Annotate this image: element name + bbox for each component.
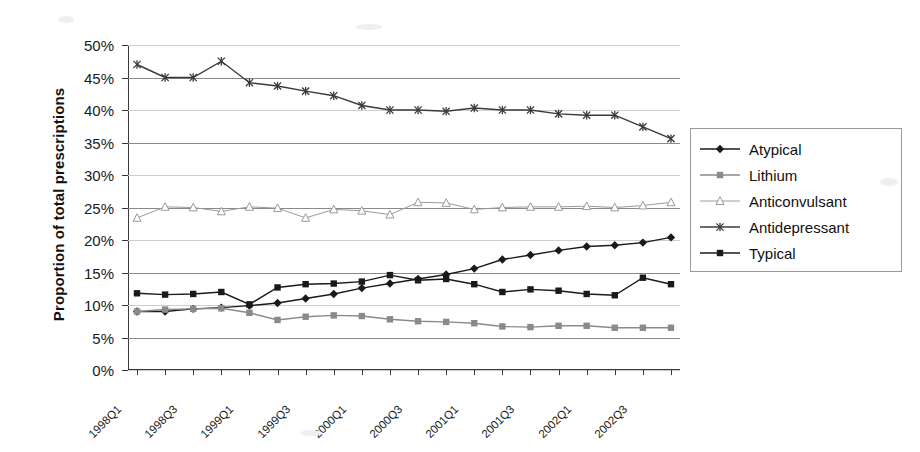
series-atypical	[133, 233, 675, 316]
y-tick-label: 10%	[84, 297, 114, 314]
legend-item-label: Lithium	[749, 167, 797, 184]
y-tick-label: 0%	[92, 362, 114, 379]
legend-item-typical[interactable]: Typical	[699, 242, 899, 264]
plot-area	[128, 45, 680, 370]
legend-item-antidepressant[interactable]: Antidepressant	[699, 216, 899, 238]
legend-item-label: Anticonvulsant	[749, 193, 847, 210]
scan-artifact	[356, 24, 382, 30]
y-tick-label: 20%	[84, 232, 114, 249]
legend-item-label: Typical	[749, 245, 796, 262]
x-tick-label: 2001Q3	[480, 403, 517, 440]
y-tick-label: 30%	[84, 167, 114, 184]
x-tick-label: 2001Q1	[423, 403, 460, 440]
series-lithium	[134, 305, 674, 331]
legend-item-label: Atypical	[749, 141, 802, 158]
x-tick-label: 2002Q1	[536, 403, 573, 440]
scan-artifact	[880, 178, 898, 186]
y-tick	[122, 370, 128, 371]
x-tick-label: 1998Q1	[86, 403, 123, 440]
y-axis-tick-labels: 0%5%10%15%20%25%30%35%40%45%50%	[62, 45, 122, 370]
chart-legend: AtypicalLithiumAnticonvulsantAntidepress…	[690, 128, 902, 272]
scan-artifact	[300, 430, 322, 436]
series-typical	[134, 272, 674, 308]
y-tick-label: 40%	[84, 102, 114, 119]
legend-item-anticonvulsant[interactable]: Anticonvulsant	[699, 190, 899, 212]
legend-marker-icon	[699, 142, 741, 156]
x-tick-label: 1998Q3	[142, 403, 179, 440]
chart-figure: Proportion of total prescriptions 0%5%10…	[0, 0, 920, 452]
y-tick-label: 15%	[84, 264, 114, 281]
legend-marker-icon	[699, 220, 741, 234]
legend-item-label: Antidepressant	[749, 219, 849, 236]
scan-artifact	[58, 16, 74, 23]
x-tick-label: 1999Q1	[198, 403, 235, 440]
x-tick-label: 1999Q3	[255, 403, 292, 440]
gridline	[128, 370, 680, 371]
y-tick-label: 35%	[84, 134, 114, 151]
legend-item-atypical[interactable]: Atypical	[699, 138, 899, 160]
series-antidepressant	[133, 57, 674, 143]
legend-item-lithium[interactable]: Lithium	[699, 164, 899, 186]
legend-marker-icon	[699, 194, 741, 208]
y-tick-label: 45%	[84, 69, 114, 86]
y-tick-label: 25%	[84, 199, 114, 216]
y-tick-label: 50%	[84, 37, 114, 54]
x-axis-tick-labels: 1998Q11998Q31999Q11999Q32000Q12000Q32001…	[128, 372, 680, 442]
x-tick-label: 2002Q3	[592, 403, 629, 440]
legend-marker-icon	[699, 246, 741, 260]
y-tick-label: 5%	[92, 329, 114, 346]
x-tick-label: 2000Q3	[367, 403, 404, 440]
legend-marker-icon	[699, 168, 741, 182]
series-anticonvulsant	[133, 198, 675, 221]
series-lines	[128, 45, 680, 370]
